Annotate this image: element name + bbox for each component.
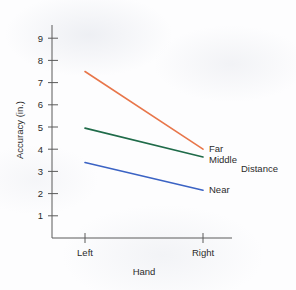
line-chart-plot: 9 8 7 6 5 4 3 2 1 Accuracy (in.) Left [0,0,296,290]
legend-label-far: Far [209,143,223,154]
x-tick-label-right: Right [192,247,215,258]
x-axis-tick-labels: Left Right [77,247,214,258]
y-tick-label-5: 5 [38,122,43,133]
y-tick-label-7: 7 [38,77,43,88]
x-axis-title: Hand [133,266,156,277]
legend-label-near: Near [209,184,230,195]
y-tick-label-6: 6 [38,99,43,110]
legend-label-middle: Middle [209,154,237,165]
chart-figure: 9 8 7 6 5 4 3 2 1 Accuracy (in.) Left [0,0,296,290]
series-line-near [85,163,203,191]
y-axis-ticks [48,38,58,216]
x-axis: Left Right Hand [52,233,232,277]
y-tick-label-3: 3 [38,166,43,177]
y-axis-tick-labels: 9 8 7 6 5 4 3 2 1 [38,33,43,222]
y-tick-label-2: 2 [38,188,43,199]
legend: Far Middle Near Distance [209,143,278,195]
series-line-middle [85,128,203,157]
y-tick-label-1: 1 [38,210,43,221]
legend-title: Distance [241,163,278,174]
y-tick-label-9: 9 [38,33,43,44]
data-series-group [85,72,203,191]
y-tick-label-8: 8 [38,55,43,66]
series-line-far [85,72,203,150]
x-tick-label-left: Left [77,247,93,258]
y-tick-label-4: 4 [38,144,43,155]
y-axis-title: Accuracy (in.) [14,101,25,159]
y-axis: 9 8 7 6 5 4 3 2 1 Accuracy (in.) [14,25,58,238]
